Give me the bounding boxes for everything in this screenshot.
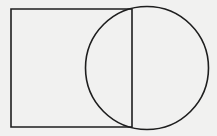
circle (86, 7, 209, 130)
geometry-diagram (0, 0, 217, 136)
rectangle (11, 9, 132, 127)
